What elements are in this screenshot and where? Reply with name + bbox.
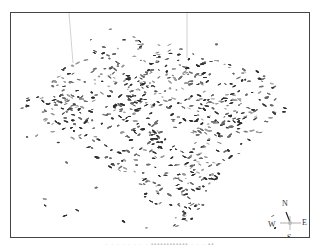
leaf-point	[212, 161, 216, 163]
leaf-point	[143, 74, 148, 76]
leaf-point	[125, 78, 130, 80]
leaf-point	[175, 148, 177, 150]
leaf-point	[151, 123, 156, 127]
leaf-point	[187, 107, 191, 109]
leaf-point	[225, 112, 229, 115]
leaf-point	[122, 39, 126, 40]
leaf-point	[154, 203, 157, 205]
leaf-point	[152, 80, 156, 83]
leaf-point	[113, 67, 118, 72]
leaf-point	[118, 165, 122, 169]
leaf-point	[79, 127, 83, 130]
leaf-point	[91, 99, 96, 102]
leaf-point	[258, 91, 262, 94]
leaf-point	[211, 173, 214, 176]
leaf-point	[189, 120, 193, 122]
leaf-point	[148, 131, 151, 133]
leaf-point	[152, 103, 155, 106]
leaf-point	[84, 134, 87, 137]
leaf-point	[118, 94, 123, 98]
leaf-point	[62, 112, 66, 115]
leaf-point	[146, 118, 150, 119]
leaf-point	[193, 160, 196, 161]
leaf-point	[160, 155, 164, 158]
leaf-point	[251, 109, 255, 111]
leaf-point	[179, 103, 182, 104]
leaf-point	[144, 91, 147, 94]
leaf-point	[264, 121, 269, 123]
leaf-point	[200, 103, 203, 105]
leaf-point	[227, 121, 230, 123]
leaf-point	[164, 172, 168, 174]
leaf-point	[256, 131, 260, 133]
leaf-point	[200, 122, 203, 125]
leaf-point	[205, 190, 207, 191]
leaf-point	[151, 85, 154, 87]
leaf-point	[51, 123, 54, 125]
leaf-point	[240, 103, 242, 105]
compass-north-label: N	[282, 200, 288, 208]
leaf-point	[193, 169, 196, 171]
leaf-point	[270, 104, 274, 106]
leaf-point	[187, 97, 190, 100]
leaf-point	[133, 159, 138, 162]
leaf-point	[224, 83, 227, 86]
leaf-point	[137, 80, 139, 82]
leaf-point	[170, 113, 174, 116]
leaf-point	[182, 155, 187, 158]
leaf-point	[107, 85, 110, 87]
leaf-point	[232, 94, 235, 96]
leaf-point	[173, 126, 177, 127]
leaf-point	[185, 72, 188, 74]
leaf-point	[109, 29, 112, 30]
leaf-point	[133, 120, 138, 122]
leaf-point	[36, 96, 39, 98]
leaf-point	[184, 82, 189, 84]
leaf-point	[196, 161, 200, 162]
point-cloud-scene	[11, 13, 309, 237]
leaf-point	[154, 166, 156, 168]
leaf-point	[241, 79, 244, 82]
leaf-point	[123, 171, 127, 172]
leaf-point	[206, 101, 210, 104]
leaf-point	[147, 69, 151, 72]
leaf-point	[269, 82, 274, 85]
leaf-point	[190, 217, 193, 220]
leaf-point	[175, 184, 179, 187]
leaf-point	[163, 99, 168, 102]
leaf-point	[130, 108, 133, 110]
leaf-point	[120, 131, 125, 134]
leaf-point	[232, 120, 236, 123]
leaf-point	[108, 113, 111, 115]
leaf-point	[149, 69, 154, 72]
leaf-point	[214, 111, 219, 115]
leaf-point	[132, 36, 135, 38]
leaf-point	[225, 100, 227, 102]
leaf-point	[164, 64, 167, 67]
leaf-point	[206, 142, 210, 145]
leaf-point	[41, 97, 44, 99]
leaf-point	[149, 149, 153, 152]
leaf-point	[115, 61, 119, 64]
leaf-point	[223, 98, 228, 99]
leaf-point	[164, 138, 167, 141]
leaf-point	[190, 171, 194, 173]
leaf-point	[204, 156, 208, 158]
leaf-point	[139, 77, 143, 80]
leaf-point	[132, 113, 135, 115]
compass-west-label: W	[268, 221, 276, 229]
leaf-point	[204, 61, 207, 63]
leaf-point	[198, 107, 202, 109]
leaf-point	[93, 52, 96, 54]
leaf-point	[188, 202, 191, 204]
leaf-point	[61, 89, 64, 92]
leaf-point	[44, 204, 47, 206]
leaf-point	[156, 141, 160, 143]
leaf-point	[158, 69, 160, 71]
leaf-point	[70, 96, 73, 99]
leaf-point	[197, 128, 200, 129]
leaf-point	[101, 57, 104, 59]
leaf-point	[263, 75, 266, 77]
leaf-point	[122, 150, 126, 151]
leaf-point	[94, 136, 98, 138]
